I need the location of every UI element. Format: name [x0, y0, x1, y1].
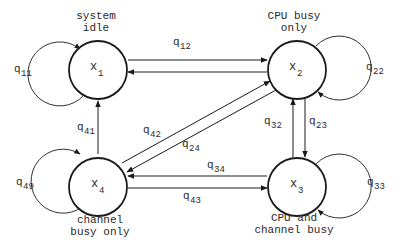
label-q24: q 24	[182, 138, 200, 154]
label-q42: q 42	[143, 124, 161, 140]
caption-x4-line1: channel	[77, 214, 123, 226]
svg-text:q: q	[309, 115, 316, 127]
node-x1-subscript: 1	[98, 69, 103, 79]
svg-text:q: q	[182, 138, 189, 150]
node-x3: x 3	[268, 158, 326, 216]
svg-text:41: 41	[84, 127, 95, 137]
svg-text:34: 34	[214, 165, 225, 175]
label-q34: q 34	[207, 159, 225, 175]
node-x4: x 4	[69, 158, 127, 216]
svg-text:12: 12	[180, 42, 191, 52]
node-x4-subscript: 4	[99, 186, 104, 196]
svg-text:23: 23	[316, 121, 327, 131]
svg-text:q: q	[143, 124, 150, 136]
label-q22: q 22	[366, 61, 384, 77]
caption-x3-line2: channel busy	[254, 224, 334, 236]
node-x1-symbol: x	[90, 60, 97, 74]
svg-text:q: q	[16, 176, 23, 188]
node-x1: x 1	[69, 41, 127, 99]
node-x3-symbol: x	[290, 177, 297, 191]
svg-text:q: q	[366, 61, 373, 73]
node-x3-subscript: 3	[298, 186, 303, 196]
node-x4-symbol: x	[91, 177, 98, 191]
label-q23: q 23	[309, 115, 327, 131]
caption-x3-line1: CPU and	[271, 212, 317, 224]
svg-text:q: q	[77, 121, 84, 133]
svg-text:43: 43	[190, 196, 201, 206]
svg-text:22: 22	[373, 67, 384, 77]
svg-text:q: q	[183, 190, 190, 202]
state-diagram: x 1 x 2 x 3 x 4 system idle CPU busy onl…	[0, 0, 402, 249]
svg-text:q: q	[173, 36, 180, 48]
label-q41: q 41	[77, 121, 95, 137]
svg-text:11: 11	[21, 69, 32, 79]
svg-text:24: 24	[189, 144, 200, 154]
label-q33: q 33	[367, 176, 385, 192]
caption-x4-line2: busy only	[70, 226, 130, 238]
svg-text:42: 42	[150, 130, 161, 140]
svg-text:q: q	[264, 115, 271, 127]
caption-x2-line2: only	[281, 22, 308, 34]
svg-text:q: q	[367, 176, 374, 188]
svg-text:33: 33	[374, 182, 385, 192]
node-x2-subscript: 2	[297, 69, 302, 79]
caption-x1-line2: idle	[83, 22, 109, 34]
label-q43: q 43	[183, 190, 201, 206]
svg-text:32: 32	[271, 121, 282, 131]
caption-x1-line1: system	[76, 10, 116, 22]
svg-text:q: q	[14, 63, 21, 75]
node-x2: x 2	[268, 41, 326, 99]
caption-x2-line1: CPU busy	[268, 10, 321, 22]
label-q32: q 32	[264, 115, 282, 131]
svg-text:49: 49	[23, 182, 34, 192]
node-x2-symbol: x	[289, 60, 296, 74]
label-q12: q 12	[173, 36, 191, 52]
svg-text:q: q	[207, 159, 214, 171]
